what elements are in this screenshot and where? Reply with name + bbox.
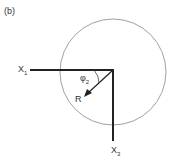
angle-arc xyxy=(94,70,99,83)
r-label: R xyxy=(75,94,82,104)
diagram: (b) X1 X3 φ2 R xyxy=(0,0,174,164)
r-vector xyxy=(88,70,113,93)
x3-label: X3 xyxy=(111,145,120,157)
x1-label: X1 xyxy=(18,64,27,76)
phi-label: φ2 xyxy=(80,73,89,85)
